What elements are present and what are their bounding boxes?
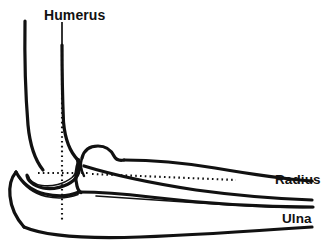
radius-head-path [82, 146, 124, 160]
ulna-inferior-border-path [24, 227, 312, 238]
label-radius: Radius [275, 172, 321, 187]
bone-illustration [0, 0, 329, 252]
humerus-anterior-cortex-path [25, 21, 43, 170]
label-ulna: Ulna [282, 211, 312, 226]
humerus-posterior-cortex-path [62, 45, 78, 160]
humerus-distal-condyle-path [27, 160, 80, 189]
elbow-anatomy-diagram: Humerus Radius Ulna [0, 0, 329, 252]
label-humerus: Humerus [44, 7, 105, 23]
